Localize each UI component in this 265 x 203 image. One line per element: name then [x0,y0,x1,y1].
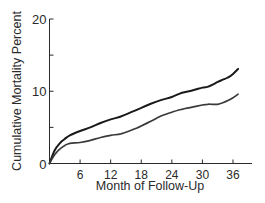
y-tick-label: 20 [32,12,46,27]
y-tick-label: 0 [39,157,46,172]
y-tick-label: 10 [32,84,46,99]
upper-mortality-curve [50,69,239,164]
y-ticks: 01020 [32,12,53,172]
x-tick-label: 6 [77,168,84,182]
mortality-chart: 01020 61218243036 Month of Follow-Up Cum… [0,0,265,203]
x-axis-label: Month of Follow-Up [96,179,204,193]
y-axis-label: Cumulative Mortality Percent [10,11,24,171]
series-lines [50,69,239,164]
x-tick-label: 36 [226,168,240,182]
lower-mortality-curve [50,94,239,163]
